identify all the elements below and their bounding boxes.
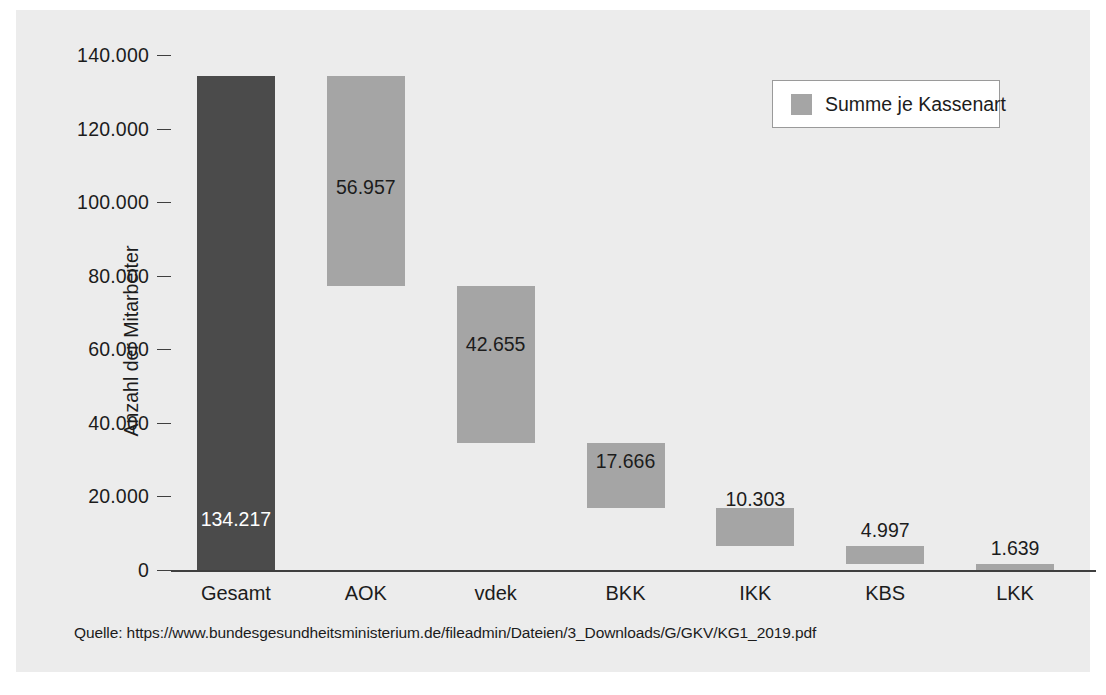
y-axis-tick xyxy=(157,276,171,277)
y-axis-tick-label: 80.000 xyxy=(16,264,149,287)
chart-legend[interactable]: Summe je Kassenart xyxy=(772,80,1000,128)
y-axis-tick xyxy=(157,423,171,424)
y-axis-tick xyxy=(157,349,171,350)
y-axis-tick-label: 20.000 xyxy=(16,485,149,508)
bar-value-label: 10.303 xyxy=(685,488,825,511)
bar-value-label: 4.997 xyxy=(815,519,955,542)
bar-value-label: 56.957 xyxy=(296,176,436,199)
y-axis-tick-label: 0 xyxy=(16,559,149,582)
chart-figure: Anzahl der Mitarbeiter 020.00040.00060.0… xyxy=(16,10,1090,672)
legend-swatch-icon xyxy=(791,94,812,115)
y-axis-tick xyxy=(157,570,171,571)
legend-label: Summe je Kassenart xyxy=(825,93,1006,116)
bar-value-label: 17.666 xyxy=(556,450,696,473)
bar-lkk[interactable] xyxy=(976,564,1054,570)
y-axis-tick-label: 120.000 xyxy=(16,117,149,140)
bar-kbs[interactable] xyxy=(846,546,924,564)
y-axis-tick-label: 140.000 xyxy=(16,44,149,67)
bar-value-label: 134.217 xyxy=(166,508,306,531)
y-axis-tick xyxy=(157,202,171,203)
y-axis-tick-label: 40.000 xyxy=(16,411,149,434)
x-category-lkk: LKK xyxy=(935,582,1095,605)
bar-ikk[interactable] xyxy=(716,508,794,546)
bar-value-label: 1.639 xyxy=(945,537,1085,560)
y-axis-tick xyxy=(157,496,171,497)
y-axis-tick xyxy=(157,55,171,56)
bar-gesamt[interactable] xyxy=(197,76,275,570)
y-axis-tick-label: 100.000 xyxy=(16,191,149,214)
x-axis-line xyxy=(171,570,1096,572)
source-caption: Quelle: https://www.bundesgesundheitsmin… xyxy=(74,624,816,642)
y-axis-tick-label: 60.000 xyxy=(16,338,149,361)
y-axis-tick xyxy=(157,129,171,130)
bar-vdek[interactable] xyxy=(457,286,535,443)
bar-value-label: 42.655 xyxy=(426,333,566,356)
